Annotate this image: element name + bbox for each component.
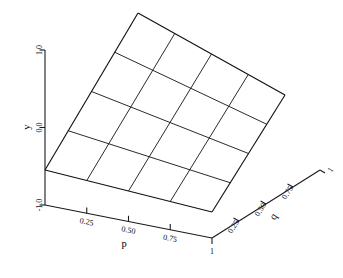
q-axis-end-label: 1 [326,166,336,174]
surface-mesh [45,13,285,212]
y-axis-tick-label-1: 1.0 [35,45,44,55]
mesh-line-p0 [45,13,138,170]
mesh-lines-constant-p [45,13,285,212]
mesh-lines-constant-q [45,13,285,212]
q-axis-title: q [267,211,280,222]
p-axis-tick-label-025: 0.25 [79,216,94,228]
surface-plot-figure: 1.0 0.0 -1.0 y 0.25 0.50 0.75 1 p [0,0,343,278]
y-axis-tick-label-0: 0.0 [35,123,44,133]
q-axis-group: 0.25 0.50 0.75 1 q [212,166,335,238]
q-axis-tick-end [320,170,325,173]
y-axis-group: 1.0 0.0 -1.0 y [21,45,45,211]
p-axis-group: 0.25 0.50 0.75 1 p [45,205,214,256]
p-axis-title: p [121,238,126,249]
mesh-line-p4 [212,95,285,212]
mesh-line-p2 [129,54,212,191]
p-axis-end-label: 1 [210,247,214,256]
p-axis-tick-label-050: 0.50 [121,224,136,236]
mesh-line-p3 [170,75,248,202]
y-axis-title: y [21,124,32,130]
p-axis-tick-label-075: 0.75 [162,233,177,245]
plot-canvas: 1.0 0.0 -1.0 y 0.25 0.50 0.75 1 p [0,0,343,278]
mesh-line-p1 [87,34,175,181]
y-axis-tick-label-neg1: -1.0 [35,199,44,212]
